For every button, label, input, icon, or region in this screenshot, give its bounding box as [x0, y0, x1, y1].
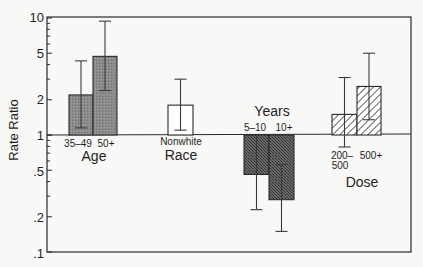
bar-group-dose-500-	[357, 53, 381, 135]
y-tick-label-5: 5	[37, 46, 44, 61]
bar-group-age-50-	[93, 21, 117, 135]
y-axis-title: Rate Ratio	[6, 99, 21, 160]
bar-group-dose-200-500	[332, 78, 357, 147]
bar-group-race-nonwhite	[168, 79, 193, 135]
y-axis-tick-labels: 10 5 2 1 .5 .2 .1	[30, 10, 44, 261]
label-dose-500-plus: 500+	[360, 150, 383, 161]
y-tick-label-2: 2	[37, 92, 44, 107]
bar-group-years-5-10	[244, 135, 269, 210]
y-tick-label-10: 10	[30, 10, 44, 25]
group-label-years: Years	[254, 103, 289, 119]
group-label-dose: Dose	[346, 174, 379, 190]
label-dose-200-500-line2: 500	[332, 160, 349, 171]
y-tick-label-1: 1	[37, 128, 44, 143]
y-tick-label-0-2: .2	[33, 210, 44, 225]
bar-group-years-10-	[269, 135, 294, 231]
y-tick-label-0-5: .5	[33, 164, 44, 179]
group-label-age: Age	[82, 148, 107, 164]
bars	[69, 21, 381, 231]
label-years-5-10: 5–10	[244, 122, 267, 133]
bar-group-age-35-49	[69, 61, 93, 135]
label-years-10-plus: 10+	[276, 122, 293, 133]
group-label-race: Race	[165, 147, 198, 163]
rate-ratio-chart: 10 5 2 1 .5 .2 .1 Rate Ratio 35–49 50+ A…	[0, 0, 423, 267]
label-race-nonwhite: Nonwhite	[160, 136, 202, 147]
y-tick-label-0-1: .1	[33, 246, 44, 261]
y-axis-ticks	[47, 18, 52, 252]
